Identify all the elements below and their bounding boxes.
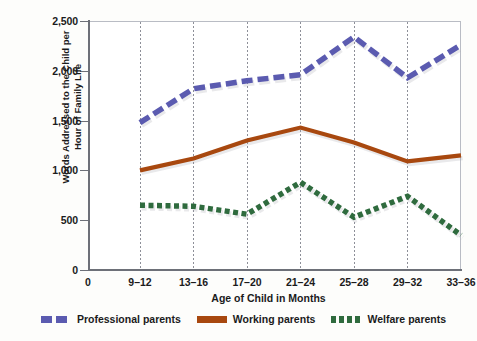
solid-line-swatch-icon	[197, 316, 227, 323]
legend-item-working: Working parents	[197, 313, 316, 325]
x-axis-line	[88, 269, 462, 271]
gridline-25-28	[354, 22, 355, 270]
dashed-line-swatch-icon	[41, 316, 71, 323]
y-axis-title-line2: Hour of Family Life	[72, 64, 83, 150]
x-tick-label: 17–20	[232, 276, 261, 288]
x-tick-label: 33–36	[446, 276, 475, 288]
x-tick-label: 25–28	[339, 276, 368, 288]
legend-item-professional: Professional parents	[41, 313, 181, 325]
y-tick-mark	[80, 270, 88, 271]
legend-label-professional: Professional parents	[77, 313, 181, 325]
legend-label-welfare: Welfare parents	[367, 313, 446, 325]
x-axis-title: Age of Child in Months	[0, 292, 477, 304]
x-tick-label: 21–24	[286, 276, 315, 288]
x-tick-label: 9–12	[128, 276, 151, 288]
plot-area	[88, 21, 461, 270]
dotted-line-swatch-icon	[331, 316, 361, 323]
gridline-29-32	[407, 22, 408, 270]
x-tick-label: 29–32	[393, 276, 422, 288]
x-tick-label: 13–16	[179, 276, 208, 288]
gridline-9-12	[140, 22, 141, 270]
line-chart: 05001,0001,5002,0002,500 Words Addressed…	[0, 0, 477, 341]
gridline-21-24	[300, 22, 301, 270]
y-axis-title: Words Addressed to the Child per Hour of…	[22, 35, 122, 255]
y-tick-label: 0	[0, 264, 78, 276]
y-axis-title-line1: Words Addressed to the Child per	[60, 30, 71, 183]
gridline-13-16	[193, 22, 194, 270]
chart-legend: Professional parents Working parents Wel…	[0, 313, 477, 325]
gridline-17-20	[247, 22, 248, 270]
x-axis-origin-label: 0	[85, 276, 91, 288]
legend-label-working: Working parents	[233, 313, 316, 325]
legend-item-welfare: Welfare parents	[331, 313, 446, 325]
